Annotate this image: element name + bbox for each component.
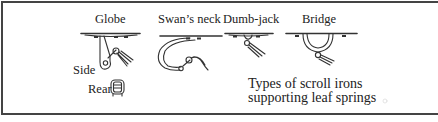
globe-scroll-iron-drawing [81,34,140,70]
faint-mark [383,99,387,103]
swans-neck-scroll-iron-drawing [158,36,222,71]
bridge-scroll-iron-drawing [286,34,357,66]
globe-rear-view-drawing [111,80,124,96]
dumb-jack-scroll-iron-drawing [225,34,273,58]
